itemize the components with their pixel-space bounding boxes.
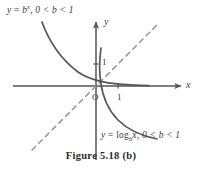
logarithmic-label-y: y xyxy=(101,130,105,140)
logarithmic-label-condition: 0 < b < 1 xyxy=(142,130,180,140)
graph-canvas xyxy=(0,0,202,171)
origin-label: O xyxy=(92,92,99,102)
figure-container: y = bx, 0 < b < 1 y = logbx, 0 < b < 1 y… xyxy=(0,0,202,171)
exponential-equation-label: y = bx, 0 < b < 1 xyxy=(7,5,74,15)
exponential-label-comma: , xyxy=(30,5,33,15)
y-axis-label: y xyxy=(104,16,108,27)
figure-caption: Figure 5.18 (b) xyxy=(0,150,202,161)
logarithmic-equation-label: y = logbx, 0 < b < 1 xyxy=(101,130,180,140)
exponential-label-condition: 0 < b < 1 xyxy=(35,5,73,15)
logarithmic-label-log: log xyxy=(116,130,129,140)
logarithmic-label-equals: = xyxy=(108,130,114,140)
y-axis-tick-label-one: 1 xyxy=(102,57,107,67)
logarithmic-label-comma: , xyxy=(137,130,140,140)
x-axis-label: x xyxy=(186,79,190,90)
exponential-label-equals: = xyxy=(14,5,20,15)
logarithmic-curve xyxy=(100,48,157,139)
x-axis-tick-label-one: 1 xyxy=(117,92,122,102)
exponential-label-y: y xyxy=(7,5,11,15)
